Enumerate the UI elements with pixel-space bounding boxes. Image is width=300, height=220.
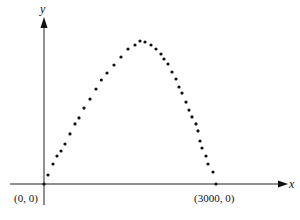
data-point [133, 43, 136, 46]
x-axis-arrow-icon [278, 181, 288, 188]
data-point [206, 162, 209, 165]
origin-label: (0, 0) [14, 192, 38, 204]
data-point [198, 139, 201, 142]
data-point [166, 62, 169, 65]
data-point [177, 85, 180, 88]
data-point [159, 52, 162, 55]
data-point [105, 71, 108, 74]
data-point [204, 154, 207, 157]
data-point [190, 115, 193, 118]
data-point [194, 122, 197, 125]
data-point [100, 78, 103, 81]
data-point [55, 154, 58, 157]
data-point [77, 116, 80, 119]
data-point [184, 101, 187, 104]
data-point [162, 57, 165, 60]
data-point [46, 173, 49, 176]
y-axis-arrow-icon [41, 17, 48, 28]
y-axis-label: y [40, 2, 45, 17]
data-point [149, 43, 152, 46]
arch-chart [0, 0, 300, 220]
data-point [170, 70, 173, 73]
data-point [88, 98, 91, 101]
data-point [143, 40, 146, 43]
data-point [68, 132, 71, 135]
data-point [82, 107, 85, 110]
data-points [42, 39, 217, 185]
data-point [211, 170, 214, 173]
data-point [200, 146, 203, 149]
data-point [63, 142, 66, 145]
data-point [138, 39, 141, 42]
data-point [51, 162, 54, 165]
data-point [154, 47, 157, 50]
end-point-label: (3000, 0) [194, 192, 234, 204]
x-axis-label: x [289, 177, 294, 192]
data-point [59, 149, 62, 152]
data-point [73, 122, 76, 125]
data-point [112, 63, 115, 66]
data-point [42, 182, 45, 185]
data-point [196, 129, 199, 132]
data-point [187, 109, 190, 112]
data-point [94, 87, 97, 90]
data-point [119, 55, 122, 58]
data-point [214, 182, 217, 185]
data-point [180, 92, 183, 95]
data-point [126, 47, 129, 50]
data-point [174, 77, 177, 80]
